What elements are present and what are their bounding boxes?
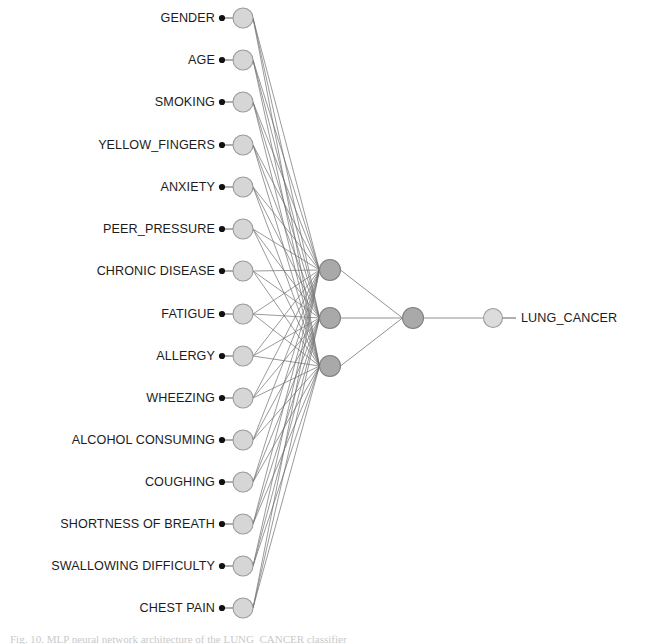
input-node-label: CHEST PAIN (140, 601, 215, 615)
input-labels: GENDERAGESMOKINGYELLOW_FINGERSANXIETYPEE… (51, 11, 215, 615)
hidden-nodes (320, 260, 341, 377)
edge-input-hidden (253, 270, 320, 482)
input-marker-dot (219, 184, 225, 190)
input-marker-dot (219, 479, 225, 485)
input-node-label: AGE (188, 53, 215, 67)
aggregation-nodes (403, 308, 424, 329)
output-labels: LUNG_CANCER (521, 311, 617, 325)
input-node-label: SWALLOWING DIFFICULTY (51, 559, 215, 573)
input-node-label: ANXIETY (160, 180, 215, 194)
input-node-label: CHRONIC DISEASE (97, 264, 215, 278)
edge-input-hidden (253, 145, 320, 366)
edge-input-hidden (253, 366, 320, 398)
hidden-node[interactable] (320, 308, 341, 329)
aggregation-node[interactable] (403, 308, 424, 329)
input-marker-dots (219, 15, 225, 611)
input-node[interactable] (233, 177, 253, 197)
input-node[interactable] (233, 472, 253, 492)
input-node[interactable] (233, 304, 253, 324)
edge-input-hidden (253, 318, 320, 608)
input-node[interactable] (233, 8, 253, 28)
input-marker-dot (219, 437, 225, 443)
input-node-label: SHORTNESS OF BREATH (60, 517, 215, 531)
input-marker-dot (219, 142, 225, 148)
input-marker-dot (219, 521, 225, 527)
neural-network-diagram: GENDERAGESMOKINGYELLOW_FINGERSANXIETYPEE… (0, 0, 655, 644)
input-marker-dot (219, 99, 225, 105)
input-node[interactable] (233, 219, 253, 239)
input-node[interactable] (233, 514, 253, 534)
input-nodes (233, 8, 253, 618)
edge-input-hidden (253, 270, 320, 608)
input-marker-dot (219, 15, 225, 21)
input-marker-dot (219, 226, 225, 232)
edge-hidden-aggregation (341, 318, 403, 366)
hidden-node[interactable] (320, 260, 341, 281)
edge-input-hidden (253, 102, 320, 270)
edge-hidden-aggregation (341, 270, 403, 318)
input-node[interactable] (233, 598, 253, 618)
edge-input-hidden (253, 60, 320, 270)
input-node-label: PEER_PRESSURE (103, 222, 215, 236)
input-marker-dot (219, 57, 225, 63)
edge-input-hidden (253, 270, 320, 271)
edges-input-to-hidden (253, 18, 320, 608)
edge-input-hidden (253, 102, 320, 366)
edge-input-hidden (253, 60, 320, 318)
input-marker-dot (219, 563, 225, 569)
edges-hidden-to-aggregation (341, 270, 403, 366)
input-node-label: FATIGUE (161, 307, 215, 321)
input-node-label: COUGHING (145, 475, 215, 489)
input-node[interactable] (233, 261, 253, 281)
input-node-label: SMOKING (155, 95, 215, 109)
input-node[interactable] (233, 346, 253, 366)
network-canvas: GENDERAGESMOKINGYELLOW_FINGERSANXIETYPEE… (0, 0, 655, 644)
output-node-label: LUNG_CANCER (521, 311, 617, 325)
edge-input-hidden (253, 187, 320, 270)
input-node-label: YELLOW_FINGERS (98, 138, 215, 152)
input-marker-dot (219, 311, 225, 317)
input-node[interactable] (233, 388, 253, 408)
input-marker-dot (219, 268, 225, 274)
input-marker-dot (219, 605, 225, 611)
input-marker-dot (219, 395, 225, 401)
output-nodes (484, 309, 503, 328)
input-node[interactable] (233, 556, 253, 576)
hidden-node[interactable] (320, 356, 341, 377)
figure-caption: Fig. 10. MLP neural network architecture… (10, 633, 347, 644)
input-node-label: ALCOHOL CONSUMING (72, 433, 215, 447)
output-node[interactable] (484, 309, 503, 328)
edge-input-hidden (253, 366, 320, 524)
input-node-label: WHEEZING (146, 391, 215, 405)
input-node[interactable] (233, 135, 253, 155)
input-node-label: GENDER (161, 11, 215, 25)
input-marker-dot (219, 353, 225, 359)
caption-label: Fig. 10. MLP neural network architecture… (10, 633, 347, 644)
input-node[interactable] (233, 92, 253, 112)
input-node[interactable] (233, 50, 253, 70)
input-node[interactable] (233, 430, 253, 450)
input-node-label: ALLERGY (156, 349, 215, 363)
